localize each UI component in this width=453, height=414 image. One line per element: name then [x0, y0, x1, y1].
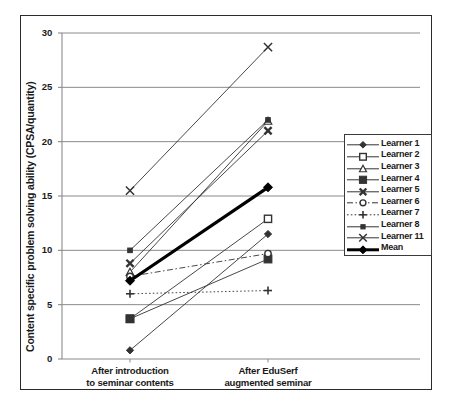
- legend-item-learner-11[interactable]: Learner 11: [346, 230, 429, 242]
- legend-item-mean[interactable]: Mean: [346, 241, 429, 253]
- series-line: [130, 131, 268, 264]
- data-point-marker: [128, 248, 133, 253]
- data-point-marker: [360, 153, 367, 160]
- data-point-marker: [266, 118, 271, 123]
- legend-label: Learner 11: [380, 231, 424, 241]
- series-line: [130, 47, 268, 190]
- series-learner-6: [127, 250, 271, 279]
- legend-marker-icon: [346, 172, 380, 184]
- series-learner-4: [126, 255, 272, 323]
- legend-label: Learner 5: [380, 184, 419, 194]
- data-point-marker: [265, 250, 271, 256]
- legend-item-learner-6[interactable]: Learner 6: [346, 195, 429, 207]
- legend-marker-icon: [346, 137, 380, 149]
- legend-item-learner-5[interactable]: Learner 5: [346, 183, 429, 195]
- series-line: [130, 120, 268, 250]
- legend-label: Learner 8: [380, 219, 419, 229]
- legend-marker-icon: [346, 160, 380, 172]
- chart-figure: Content specific problem solving ability…: [0, 0, 453, 414]
- legend-marker-icon: [346, 241, 380, 253]
- legend-item-learner-7[interactable]: Learner 7: [346, 207, 429, 219]
- data-point-marker: [359, 246, 367, 254]
- data-point-marker: [360, 200, 366, 206]
- series-learner-11: [126, 43, 272, 195]
- data-point-marker: [264, 215, 271, 222]
- legend-label: Mean: [380, 242, 403, 252]
- legend-marker-icon: [346, 149, 380, 161]
- data-point-marker: [126, 315, 134, 323]
- series-learner-7: [126, 287, 272, 298]
- legend-item-learner-1[interactable]: Learner 1: [346, 137, 429, 149]
- series-line: [130, 291, 268, 294]
- legend-marker-icon: [346, 195, 380, 207]
- x-category-line: After introduction: [70, 365, 190, 377]
- legend-marker-icon: [346, 207, 380, 219]
- legend-marker-icon: [346, 183, 380, 195]
- legend-item-learner-2[interactable]: Learner 2: [346, 149, 429, 161]
- x-category-line: augmented seminar: [208, 377, 328, 389]
- legend-item-learner-3[interactable]: Learner 3: [346, 160, 429, 172]
- legend-label: Learner 3: [380, 161, 419, 171]
- data-point-marker: [360, 142, 367, 149]
- x-category-label: After introductionto seminar contents: [70, 365, 190, 388]
- legend-label: Learner 4: [380, 173, 419, 183]
- data-point-marker: [361, 224, 365, 228]
- legend-item-learner-8[interactable]: Learner 8: [346, 218, 429, 230]
- chart-legend: Learner 1Learner 2Learner 3Learner 4Lear…: [344, 134, 432, 256]
- legend-marker-icon: [346, 230, 380, 242]
- legend-label: Learner 2: [380, 149, 419, 159]
- legend-label: Learner 7: [380, 207, 419, 217]
- legend-label: Learner 1: [380, 138, 419, 148]
- legend-label: Learner 6: [380, 196, 419, 206]
- x-category-line: After EduSerf: [208, 365, 328, 377]
- legend-marker-icon: [346, 218, 380, 230]
- series-learner-5: [126, 127, 271, 267]
- x-category-label: After EduSerfaugmented seminar: [208, 365, 328, 388]
- x-category-line: to seminar contents: [70, 377, 190, 389]
- legend-item-learner-4[interactable]: Learner 4: [346, 172, 429, 184]
